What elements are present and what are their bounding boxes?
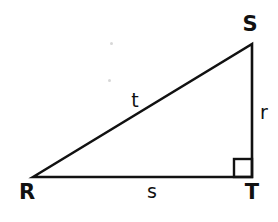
side-label-r: r (260, 103, 268, 122)
side-label-s: s (147, 182, 157, 201)
scan-speck-icon (110, 42, 113, 45)
vertex-label-t: T (245, 182, 259, 203)
geometry-figure: R S T t r s (0, 0, 278, 222)
right-angle-marker-t (234, 159, 252, 177)
triangle-rst-outline (33, 44, 252, 177)
scan-speck-icon (108, 79, 111, 82)
vertex-label-s: S (242, 14, 257, 35)
side-label-t: t (131, 91, 138, 110)
vertex-label-r: R (19, 182, 35, 203)
triangle-canvas (0, 0, 278, 222)
